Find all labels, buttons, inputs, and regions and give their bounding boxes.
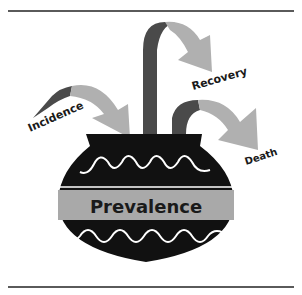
recovery-label: Recovery bbox=[190, 65, 249, 93]
prevalence-diagram: Prevalence Incidence Recovery Death bbox=[0, 0, 302, 295]
death-label: Death bbox=[243, 146, 278, 167]
pot-label: Prevalence bbox=[90, 196, 202, 217]
